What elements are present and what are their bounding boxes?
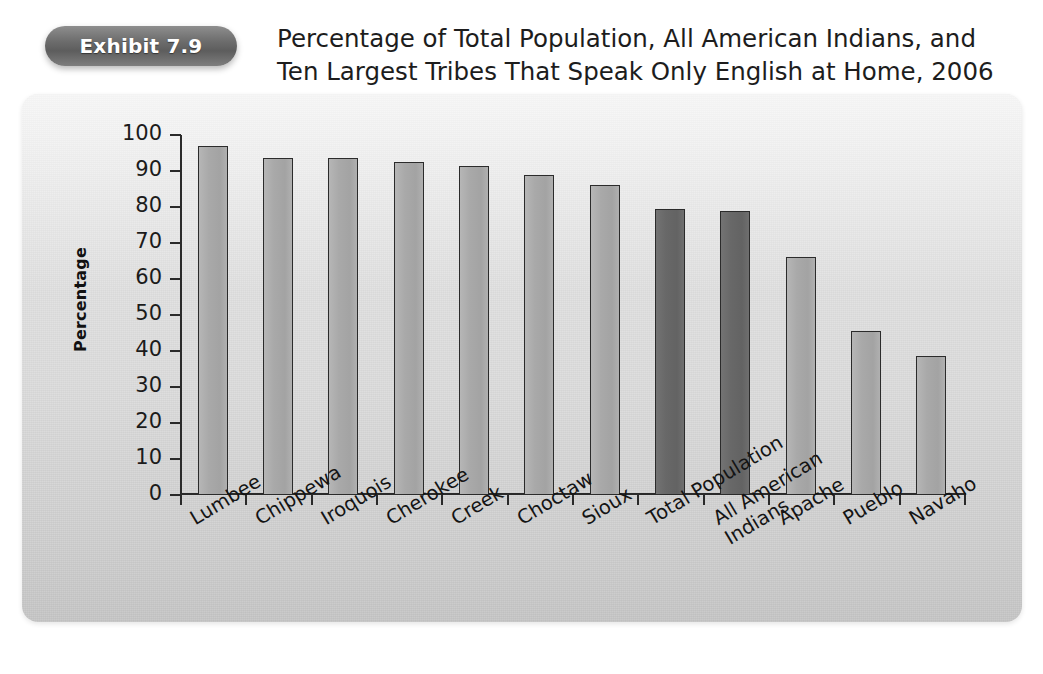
bar-cherokee [394,162,424,495]
bar-navaho [916,356,946,495]
y-axis-tick-label: 30 [82,373,162,397]
exhibit-page: Exhibit 7.9 Percentage of Total Populati… [0,0,1043,674]
bar-pueblo [851,331,881,495]
bar-sioux [590,185,620,495]
bars-layer [180,135,964,495]
y-axis-tick-label: 90 [82,157,162,181]
y-axis-tick-label: 80 [82,193,162,217]
y-axis-tick-label: 50 [82,301,162,325]
bar-iroquois [328,158,358,495]
x-axis-tick-labels: LumbeeChippewaIroquoisCherokeeCreekChoct… [180,498,1022,618]
y-axis-tick-label: 10 [82,445,162,469]
bar-total-population [655,209,685,495]
y-axis-tick-label: 60 [82,265,162,289]
exhibit-header: Exhibit 7.9 Percentage of Total Populati… [0,0,1043,96]
y-axis-tick-label: 70 [82,229,162,253]
exhibit-title-line-2: Ten Largest Tribes That Speak Only Engli… [277,55,977,88]
y-axis-tick-label: 20 [82,409,162,433]
y-axis-tick-label: 0 [82,481,162,505]
bar-creek [459,166,489,495]
bar-chippewa [263,158,293,495]
exhibit-number-label: Exhibit 7.9 [80,34,203,58]
bar-choctaw [524,175,554,495]
exhibit-title: Percentage of Total Population, All Amer… [277,22,977,88]
bar-chart-plot: Percentage 1009080706050403020100 Lumbee… [22,94,1022,622]
chart-panel: Percentage 1009080706050403020100 Lumbee… [22,94,1022,622]
y-axis-tick-label: 40 [82,337,162,361]
bar-lumbee [198,146,228,495]
exhibit-title-line-1: Percentage of Total Population, All Amer… [277,22,977,55]
y-axis-tick-label: 100 [82,121,162,145]
exhibit-number-badge: Exhibit 7.9 [45,26,237,66]
